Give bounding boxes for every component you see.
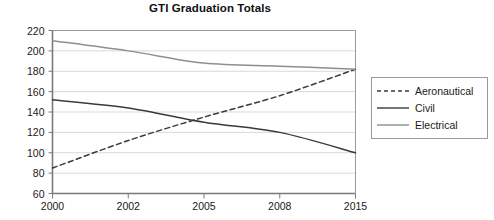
series-group [53,41,356,168]
legend-label-electrical: Electrical [415,119,458,131]
x-axis-tick-label: 2000 [41,200,65,212]
legend-line-solid-dark-icon [376,103,410,113]
y-axis-labels-group: 6080100120140160180200220 [27,25,45,200]
series-line-civil [53,100,356,153]
y-axis-tick-label: 120 [27,126,45,138]
legend-item-aeronautical: Aeronautical [376,82,484,99]
y-axis-tick-label: 60 [33,188,45,200]
legend-line-solid-gray-icon [376,120,410,130]
x-axis-tick-label: 2008 [268,200,292,212]
legend: Aeronautical Civil Electrical [371,77,488,139]
y-axis-tick-label: 100 [27,147,45,159]
y-axis-tick-label: 80 [33,167,45,179]
y-axis-tick-label: 160 [27,86,45,98]
y-axis-tick-label: 220 [27,25,45,37]
chart-container: GTI Graduation Totals 608010012014016018… [0,0,494,220]
legend-line-dashed-icon [376,86,410,96]
legend-label-aeronautical: Aeronautical [415,85,473,97]
y-axis-tick-label: 180 [27,65,45,77]
y-axis-tick-label: 200 [27,45,45,57]
x-axis-tick-label: 2005 [192,200,216,212]
gridlines-group [53,51,356,173]
y-axis-tick-label: 140 [27,106,45,118]
legend-label-civil: Civil [415,102,435,114]
x-axis-tick-label: 2002 [117,200,141,212]
series-line-electrical [53,41,356,70]
x-axis-tick-label: 2015 [344,200,368,212]
legend-item-electrical: Electrical [376,116,484,133]
x-axis-labels-group: 20002002200520082015 [41,200,368,212]
legend-item-civil: Civil [376,99,484,116]
